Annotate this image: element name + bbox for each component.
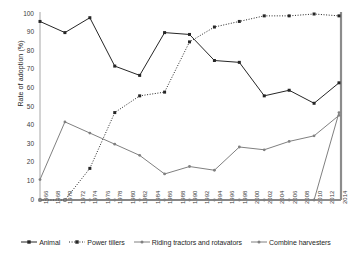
series-line-riding-tractors-and-rotavators xyxy=(40,115,339,179)
point-combine-harvesters-1990 xyxy=(188,199,191,202)
legend-marker xyxy=(27,240,30,243)
point-riding-tractors-and-rotavators-1974 xyxy=(88,132,91,135)
point-riding-tractors-and-rotavators-1986 xyxy=(163,173,166,176)
point-combine-harvesters-1978 xyxy=(113,199,116,202)
point-riding-tractors-and-rotavators-1982 xyxy=(138,154,141,157)
legend-marker xyxy=(76,240,79,243)
point-animal-1974 xyxy=(88,16,91,19)
point-riding-tractors-and-rotavators-1994 xyxy=(213,169,216,172)
plot-area xyxy=(0,0,352,254)
point-combine-harvesters-1982 xyxy=(138,199,141,202)
point-animal-1994 xyxy=(213,59,216,62)
legend-item-power-tillers[interactable]: Power tillers xyxy=(69,238,124,246)
point-combine-harvesters-2014 xyxy=(338,111,341,114)
combine-harvesters-legend-key xyxy=(251,238,267,246)
point-combine-harvesters-1998 xyxy=(238,199,241,202)
point-animal-2014 xyxy=(338,81,341,84)
point-power-tillers-2010 xyxy=(313,13,316,16)
point-riding-tractors-and-rotavators-1998 xyxy=(238,146,241,149)
point-animal-1990 xyxy=(188,33,191,36)
point-combine-harvesters-1974 xyxy=(88,199,91,202)
point-power-tillers-1978 xyxy=(113,111,116,114)
point-combine-harvesters-2002 xyxy=(263,199,266,202)
legend-label: Power tillers xyxy=(87,239,124,246)
point-power-tillers-1982 xyxy=(138,94,141,97)
point-riding-tractors-and-rotavators-1966 xyxy=(39,178,42,181)
point-riding-tractors-and-rotavators-2006 xyxy=(288,140,291,143)
point-power-tillers-1990 xyxy=(188,40,191,43)
point-animal-2010 xyxy=(313,102,316,105)
point-combine-harvesters-1966 xyxy=(39,199,42,202)
point-riding-tractors-and-rotavators-2002 xyxy=(263,148,266,151)
point-combine-harvesters-2010 xyxy=(313,199,316,202)
point-animal-1982 xyxy=(138,74,141,77)
point-power-tillers-1998 xyxy=(238,20,241,23)
point-animal-1978 xyxy=(113,65,116,68)
series-line-combine-harvesters xyxy=(40,113,339,200)
legend-item-riding-tractors-and-rotavators[interactable]: Riding tractors and rotavators xyxy=(134,238,242,246)
point-power-tillers-1994 xyxy=(213,26,216,29)
point-animal-2002 xyxy=(263,94,266,97)
point-animal-1986 xyxy=(163,31,166,34)
legend-label: Combine harvesters xyxy=(269,239,331,246)
animal-legend-key xyxy=(21,238,37,246)
point-animal-2006 xyxy=(288,89,291,92)
point-power-tillers-1986 xyxy=(163,91,166,94)
point-power-tillers-2002 xyxy=(263,14,266,17)
power-tillers-legend-key xyxy=(69,238,85,246)
legend-label: Riding tractors and rotavators xyxy=(152,239,242,246)
point-riding-tractors-and-rotavators-2010 xyxy=(313,134,316,137)
point-power-tillers-1974 xyxy=(88,167,91,170)
point-animal-1966 xyxy=(39,20,42,23)
legend-marker xyxy=(258,241,261,244)
legend-label: Animal xyxy=(39,239,60,246)
point-power-tillers-2006 xyxy=(288,14,291,17)
point-riding-tractors-and-rotavators-1970 xyxy=(64,120,67,123)
chart-container: Rate of adoption (%) 0102030405060708090… xyxy=(0,0,352,254)
chart-legend: AnimalPower tillersRiding tractors and r… xyxy=(0,232,352,252)
point-riding-tractors-and-rotavators-1990 xyxy=(188,165,191,168)
series-line-animal xyxy=(40,18,339,104)
point-combine-harvesters-2006 xyxy=(288,199,291,202)
legend-item-animal[interactable]: Animal xyxy=(21,238,60,246)
riding-tractors-legend-key xyxy=(134,238,150,246)
legend-marker xyxy=(140,241,143,244)
point-combine-harvesters-1986 xyxy=(163,199,166,202)
point-combine-harvesters-1994 xyxy=(213,199,216,202)
legend-item-combine-harvesters[interactable]: Combine harvesters xyxy=(251,238,331,246)
point-animal-1970 xyxy=(63,31,66,34)
point-power-tillers-2014 xyxy=(338,14,341,17)
point-riding-tractors-and-rotavators-1978 xyxy=(113,143,116,146)
point-animal-1998 xyxy=(238,61,241,64)
point-combine-harvesters-1970 xyxy=(64,199,67,202)
